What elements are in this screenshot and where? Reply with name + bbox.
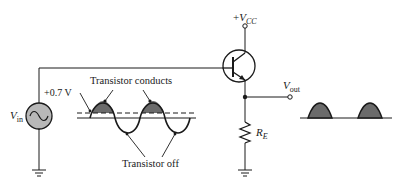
vout-label: Vout [283,80,300,94]
conducts-label: Transistor conducts [90,76,172,87]
re-main: R [256,126,263,138]
ground-icon [238,170,252,176]
vout-terminal [288,95,292,99]
off-label: Transistor off [122,159,179,170]
vin-sub: in [17,115,23,124]
re-label: RE [256,127,268,141]
threshold-label: +0.7 V [44,88,72,98]
vcc-sub: CC [246,17,257,26]
ground-icon [32,170,46,176]
resistor-icon [240,122,250,143]
re-sub: E [263,132,268,141]
vout-main: V [283,79,290,91]
output-waveform [300,103,392,118]
vout-sub: out [290,85,300,94]
ac-source-icon [26,103,52,129]
vin-label: Vin [10,110,23,124]
vin-main: V [10,109,17,121]
input-waveform [77,90,196,157]
vcc-main: V [239,11,246,23]
npn-transistor-icon [222,50,255,82]
vcc-label: +VCC [233,12,257,26]
